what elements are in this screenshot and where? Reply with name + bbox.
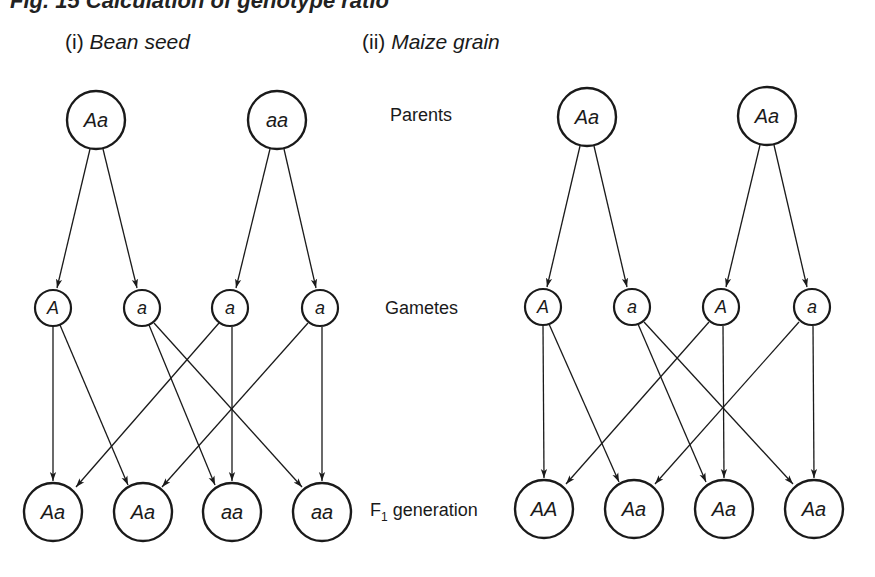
arrow-g1-f1 <box>543 326 544 478</box>
arrow-g1-f2 <box>549 324 619 482</box>
f1-1-genotype: AA <box>530 498 558 520</box>
panel-1-diagram <box>24 91 351 541</box>
gamete-3-allele: A <box>714 297 727 317</box>
arrow-p1-g1 <box>57 149 90 288</box>
f1-2-genotype: Aa <box>130 501 155 523</box>
parent-2-genotype: Aa <box>754 105 779 127</box>
f1-1-genotype: Aa <box>40 501 65 523</box>
genotype-ratio-figure: Fig. 15 Calculation of genotype ratio (i… <box>0 0 875 577</box>
arrow-p1-g2 <box>594 146 627 287</box>
gamete-2-allele: a <box>137 298 147 318</box>
gamete-2-allele: a <box>627 297 637 317</box>
gamete-1-allele: A <box>46 298 59 318</box>
arrow-p2-g4 <box>774 145 807 287</box>
arrow-g2-f4 <box>154 323 302 487</box>
gamete-3-allele: a <box>225 298 235 318</box>
f1-3-genotype: aa <box>221 501 243 523</box>
f1-2-genotype: Aa <box>621 498 646 520</box>
arrow-p2-g4 <box>284 149 316 288</box>
arrow-g4-f4 <box>813 326 814 478</box>
parent-1-genotype: Aa <box>574 106 599 128</box>
gamete-1-allele: A <box>536 297 549 317</box>
gamete-4-allele: a <box>807 297 817 317</box>
arrow-p1-g1 <box>547 146 580 287</box>
parent-2-genotype: aa <box>266 109 288 131</box>
arrow-g4-f2 <box>655 322 799 484</box>
arrow-g4-f2 <box>162 323 308 487</box>
arrow-g2-f3 <box>638 324 706 482</box>
arrow-p2-g3 <box>236 149 270 288</box>
arrow-g3-f3 <box>723 326 724 478</box>
arrow-g2-f3 <box>149 325 215 485</box>
f1-4-genotype: aa <box>311 501 333 523</box>
arrow-p2-g3 <box>726 145 760 287</box>
arrow-g3-f1 <box>76 323 219 487</box>
panel-2-diagram <box>515 87 843 538</box>
f1-4-genotype: Aa <box>801 498 826 520</box>
arrow-g2-f4 <box>644 322 793 484</box>
gamete-4-allele: a <box>315 298 325 318</box>
parent-1-genotype: Aa <box>83 109 108 131</box>
arrow-p1-g2 <box>103 149 137 288</box>
cross-diagram-svg: Aa aa A a a a Aa Aa aa aa <box>0 0 875 577</box>
arrow-g3-f1 <box>566 322 709 484</box>
arrow-g1-f2 <box>60 325 128 485</box>
f1-3-genotype: Aa <box>711 498 736 520</box>
